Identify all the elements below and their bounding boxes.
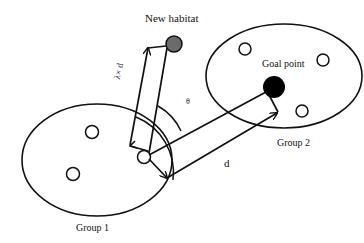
lambda-d-top-tick bbox=[148, 46, 166, 48]
new-habitat-point bbox=[166, 36, 182, 52]
d-dimension-tick bbox=[149, 159, 167, 178]
goal-point bbox=[263, 76, 285, 98]
goal-direction-line bbox=[149, 92, 266, 155]
group1-member bbox=[67, 168, 80, 181]
habitat-migration-diagram bbox=[0, 0, 364, 243]
group2-member bbox=[317, 54, 329, 66]
lambda-d-dimension-arrow bbox=[130, 48, 148, 145]
group2-label: Group 2 bbox=[277, 137, 310, 148]
goal-point-label: Goal point bbox=[262, 58, 305, 69]
d-dimension-arrow bbox=[167, 113, 277, 178]
group1-member bbox=[86, 126, 99, 139]
theta-label: θ bbox=[186, 97, 190, 106]
group2-member bbox=[296, 105, 308, 117]
new-habitat-label: New habitat bbox=[145, 12, 198, 24]
group1-label: Group 1 bbox=[76, 222, 109, 233]
theta-arc bbox=[158, 106, 181, 131]
group2-member bbox=[239, 43, 251, 55]
d-label: d bbox=[224, 157, 230, 169]
migration-line bbox=[149, 48, 167, 153]
